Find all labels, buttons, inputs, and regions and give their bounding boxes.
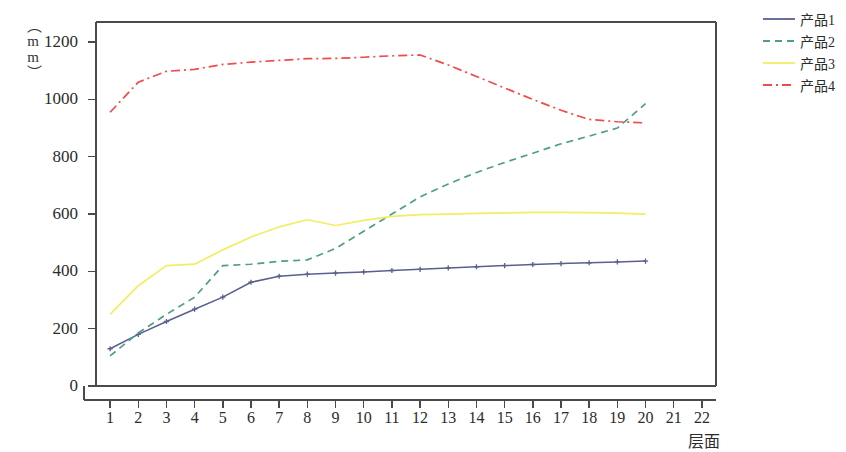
legend-swatch-series2 bbox=[762, 35, 796, 47]
legend-item[interactable]: 产品1 bbox=[762, 8, 846, 30]
legend-swatch-series4 bbox=[762, 79, 796, 91]
data-point-marker bbox=[361, 269, 366, 274]
legend-label-series1: 产品1 bbox=[800, 9, 835, 29]
data-point-marker bbox=[333, 270, 338, 275]
data-point-marker bbox=[587, 260, 592, 265]
data-point-marker bbox=[502, 263, 507, 268]
x-tick-label: 7 bbox=[266, 409, 292, 427]
data-point-marker bbox=[220, 295, 225, 300]
y-tick-label: 400 bbox=[20, 261, 78, 281]
x-tick-label: 1 bbox=[97, 409, 123, 427]
legend-label-series4: 产品4 bbox=[800, 75, 835, 95]
chart-legend: 产品1 产品2 产品3 产品4 bbox=[762, 8, 846, 96]
x-tick-label: 6 bbox=[238, 409, 264, 427]
x-axis-title: 层面 bbox=[688, 428, 720, 452]
x-tick-label: 17 bbox=[548, 409, 574, 427]
x-tick-label: 9 bbox=[323, 409, 349, 427]
data-point-marker bbox=[277, 274, 282, 279]
data-point-marker bbox=[164, 319, 169, 324]
x-tick-label: 20 bbox=[633, 409, 659, 427]
x-tick-label: 12 bbox=[407, 409, 433, 427]
series-line-产品1 bbox=[110, 261, 645, 349]
x-tick-label: 16 bbox=[520, 409, 546, 427]
y-tick-label: 1200 bbox=[20, 32, 78, 52]
x-tick-label: 11 bbox=[379, 409, 405, 427]
x-tick-label: 19 bbox=[604, 409, 630, 427]
x-tick-label: 15 bbox=[492, 409, 518, 427]
data-point-marker bbox=[107, 346, 112, 351]
data-point-marker bbox=[643, 258, 648, 263]
data-point-marker bbox=[558, 261, 563, 266]
x-tick-label: 4 bbox=[182, 409, 208, 427]
x-tick-label: 2 bbox=[125, 409, 151, 427]
series-line-产品4 bbox=[110, 55, 645, 123]
data-point-marker bbox=[248, 280, 253, 285]
y-tick-label: 600 bbox=[20, 204, 78, 224]
data-point-marker bbox=[417, 267, 422, 272]
x-tick-label: 21 bbox=[661, 409, 687, 427]
legend-item[interactable]: 产品4 bbox=[762, 74, 846, 96]
data-point-marker bbox=[530, 262, 535, 267]
legend-item[interactable]: 产品3 bbox=[762, 52, 846, 74]
x-tick-label: 5 bbox=[210, 409, 236, 427]
x-tick-label: 8 bbox=[294, 409, 320, 427]
data-series-layer bbox=[107, 55, 648, 356]
x-tick-label: 18 bbox=[576, 409, 602, 427]
data-point-marker bbox=[446, 265, 451, 270]
legend-swatch-series3 bbox=[762, 57, 796, 69]
legend-item[interactable]: 产品2 bbox=[762, 30, 846, 52]
x-tick-label: 3 bbox=[153, 409, 179, 427]
series-line-产品2 bbox=[110, 104, 645, 356]
legend-label-series2: 产品2 bbox=[800, 31, 835, 51]
x-tick-label: 13 bbox=[435, 409, 461, 427]
legend-swatch-series1 bbox=[762, 13, 796, 25]
y-tick-label: 0 bbox=[20, 376, 78, 396]
x-tick-label: 10 bbox=[351, 409, 377, 427]
data-point-marker bbox=[615, 259, 620, 264]
data-point-marker bbox=[474, 264, 479, 269]
x-tick-label: 22 bbox=[689, 409, 715, 427]
y-tick-label: 200 bbox=[20, 319, 78, 339]
x-tick-label: 14 bbox=[463, 409, 489, 427]
y-tick-label: 800 bbox=[20, 147, 78, 167]
data-point-marker bbox=[389, 268, 394, 273]
data-point-marker bbox=[192, 307, 197, 312]
y-tick-label: 1000 bbox=[20, 89, 78, 109]
data-point-marker bbox=[305, 272, 310, 277]
legend-label-series3: 产品3 bbox=[800, 53, 835, 73]
